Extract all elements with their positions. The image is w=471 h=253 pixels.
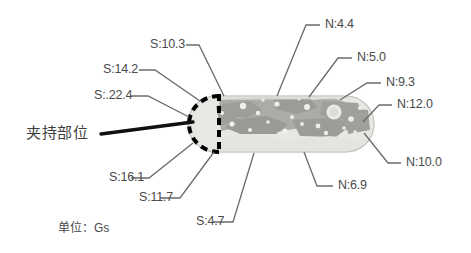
clamp-position-label: 夹持部位 [26,125,88,140]
value-label-s-14-2: S:14.2 [103,63,138,76]
leader-s-22-4 [131,96,189,117]
leader-s-10-3 [186,45,224,96]
value-label-s-4-7: S:4.7 [196,215,224,228]
value-label-n-6-9: N:6.9 [338,179,367,192]
clamp-leader-line [101,122,193,134]
value-label-s-16-1: S:16.1 [109,171,144,184]
unit-caption: 单位：Gs [58,222,109,234]
leader-n-6-9 [304,152,333,186]
specimen-texture [196,93,376,152]
value-label-s-10-3: S:10.3 [150,38,185,51]
value-label-n-5-0: N:5.0 [357,51,386,64]
value-label-n-9-3: N:9.3 [386,76,415,89]
leader-n-4-4 [277,25,320,96]
value-label-n-12-0: N:12.0 [397,98,433,111]
specimen-body [188,93,376,152]
value-label-n-10-0: N:10.0 [406,156,442,169]
leader-n-5-0 [309,58,352,97]
value-label-n-4-4: N:4.4 [325,18,354,31]
leader-s-4-7 [213,153,254,222]
magnetic-measurement-figure: S:10.3 S:14.2 S:.22.4 S:16.1 S:11.7 S:4.… [0,0,471,253]
value-label-s-11-7: S:11.7 [139,191,173,204]
value-label-s-22-4: S:.22.4 [94,89,132,102]
